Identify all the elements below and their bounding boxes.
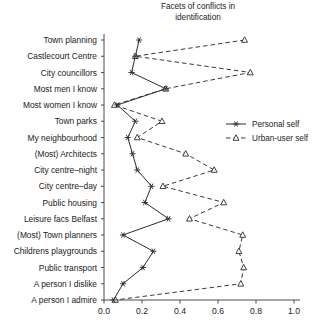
- series-markers-urban-user-self: [112, 37, 254, 303]
- legend-item[interactable]: Urban-user self: [226, 134, 309, 143]
- x-axis-ticks: [104, 300, 294, 304]
- y-axis-label: A person I admire: [31, 295, 97, 305]
- legend-item[interactable]: Personal self: [226, 120, 300, 129]
- x-axis-label: 1.0: [288, 306, 300, 316]
- data-point-triangle: [238, 281, 244, 287]
- data-point-triangle: [134, 134, 140, 140]
- x-axis-label: 0.6: [212, 306, 224, 316]
- y-axis-label: City councillors: [41, 68, 97, 78]
- y-axis-label: City centre–night: [34, 165, 98, 175]
- x-axis-label: 0.2: [136, 306, 148, 316]
- data-point-triangle: [241, 264, 247, 270]
- x-axis-label: 0.4: [174, 306, 186, 316]
- x-axis-label: 0.0: [98, 306, 110, 316]
- data-point-triangle: [236, 248, 242, 254]
- y-axis-label: Town planning: [43, 35, 97, 45]
- y-axis-label: (Most) Town planners: [17, 230, 97, 240]
- data-point-triangle: [211, 167, 217, 173]
- data-point-star: [125, 135, 131, 140]
- y-axis-label: (Most) Architects: [35, 149, 97, 159]
- data-point-triangle: [247, 69, 253, 75]
- legend-label: Urban-user self: [252, 134, 309, 143]
- x-axis-label: 0.8: [250, 306, 262, 316]
- legend-label: Personal self: [252, 120, 300, 129]
- data-point-star: [129, 151, 135, 156]
- y-axis-label: Most women I know: [23, 100, 98, 110]
- y-axis-label: My neighbourhood: [28, 133, 98, 143]
- data-point-star: [120, 232, 126, 237]
- y-axis-label: Castlecourt Centre: [27, 51, 97, 61]
- data-point-star: [233, 121, 239, 126]
- data-point-triangle: [242, 37, 248, 43]
- chart-legend: Personal selfUrban-user self: [226, 120, 309, 143]
- y-axis-label: Town parks: [55, 116, 97, 126]
- y-axis-label: Public housing: [43, 198, 98, 208]
- y-axis-label: A person I dislike: [34, 279, 98, 289]
- y-axis-label: Childrens playgrounds: [14, 246, 97, 256]
- data-point-star: [150, 249, 156, 254]
- y-axis-label: Leisure facs Belfast: [24, 214, 98, 224]
- y-axis-label: Most men I know: [34, 84, 98, 94]
- x-axis-tick-labels: 0.00.20.40.60.81.0: [98, 306, 300, 316]
- y-axis-label: Public transport: [39, 263, 98, 273]
- data-point-triangle: [221, 199, 227, 205]
- series-line-personal-self: [114, 40, 169, 300]
- y-axis-tick-labels: Town planningCastlecourt CentreCity coun…: [14, 35, 98, 305]
- chart-container: Facets of conflicts in identification To…: [0, 0, 328, 335]
- chart-plot-area: Town planningCastlecourt CentreCity coun…: [0, 0, 328, 335]
- y-axis-label: City centre–day: [39, 181, 98, 191]
